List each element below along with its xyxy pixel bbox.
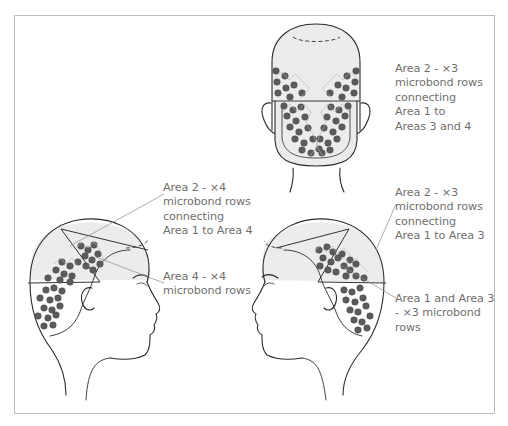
microbond-dot: [82, 253, 89, 260]
microbond-dot: [61, 271, 68, 278]
right-divider-horizontal: [318, 282, 386, 283]
microbond-dot: [97, 261, 104, 268]
microbond-dot: [45, 275, 52, 282]
right-eye: [264, 283, 274, 286]
microbond-dot: [275, 90, 282, 97]
microbond-dot: [330, 249, 337, 256]
left-eye: [137, 283, 147, 286]
back-neck-right: [340, 168, 344, 192]
back-ear-left: [262, 103, 276, 134]
microbond-dot: [50, 322, 57, 329]
microbond-dot: [90, 267, 97, 274]
microbond-dot: [299, 90, 306, 97]
microbond-dot: [342, 113, 349, 120]
microbond-dot: [274, 79, 281, 86]
microbond-dot: [296, 129, 303, 136]
microbond-dot: [334, 136, 341, 143]
microbond-dot: [321, 125, 328, 132]
left-ear: [81, 288, 94, 310]
back-ear-right: [356, 103, 370, 134]
microbond-dot: [353, 261, 360, 268]
microbond-dot: [45, 315, 52, 322]
back-lower-shade: [275, 101, 357, 166]
microbond-dot: [67, 279, 74, 286]
microbond-dot: [341, 287, 348, 294]
microbond-dot: [53, 312, 60, 319]
microbond-dot: [349, 289, 356, 296]
microbond-dot: [328, 259, 335, 266]
microbond-dot: [293, 118, 300, 125]
microbond-dot: [359, 319, 366, 326]
microbond-dot: [363, 303, 370, 310]
microbond-dot: [339, 251, 346, 258]
microbond-dot: [37, 295, 44, 302]
microbond-dot: [355, 309, 362, 316]
left-profile-head: [28, 194, 164, 400]
microbond-dot: [57, 277, 64, 284]
microbond-dot: [325, 267, 332, 274]
microbond-dot: [333, 269, 340, 276]
label-right-area2: Area 2 - ×3 microbond rows connecting Ar…: [395, 186, 485, 244]
microbond-dot: [333, 118, 340, 125]
left-face-outline: [110, 282, 160, 359]
label-back-area2: Area 2 - ×3 microbond rows connecting Ar…: [395, 62, 483, 134]
label-left-area4: Area 4 - ×4 microbond rows: [163, 270, 251, 299]
microbond-dot: [89, 257, 96, 264]
microbond-dot: [347, 257, 354, 264]
microbond-dot: [283, 85, 290, 92]
microbond-dot: [291, 82, 298, 89]
back-view-head: [262, 24, 370, 192]
microbond-dot: [47, 297, 54, 304]
microbond-dot: [292, 136, 299, 143]
right-neck-front: [302, 358, 326, 400]
microbond-dot: [339, 124, 346, 131]
microbond-dot: [284, 113, 291, 120]
microbond-dot: [327, 90, 334, 97]
microbond-dot: [95, 251, 102, 258]
microbond-dot: [51, 285, 58, 292]
microbond-dot: [302, 114, 309, 121]
microbond-dot: [347, 307, 354, 314]
label-right-area1-area3: Area 1 and Area 3 - ×3 microbond rows: [395, 292, 494, 335]
microbond-dot: [287, 124, 294, 131]
microbond-dot: [55, 295, 62, 302]
microbond-dot: [343, 297, 350, 304]
microbond-dot: [360, 295, 367, 302]
microbond-dot: [317, 263, 324, 270]
microbond-dot: [351, 90, 358, 97]
microbond-dot: [67, 263, 74, 270]
microbond-dot: [353, 68, 360, 75]
microbond-dot: [59, 288, 66, 295]
microbond-dot: [287, 94, 294, 101]
microbond-dot: [330, 129, 337, 136]
microbond-dot: [343, 85, 350, 92]
microbond-dot: [352, 299, 359, 306]
microbond-dot: [75, 259, 82, 266]
microbond-dot: [69, 273, 76, 280]
microbond-dot: [357, 285, 364, 292]
microbond-dot: [324, 114, 331, 121]
microbond-dot: [41, 323, 48, 330]
left-neck-front: [86, 358, 110, 400]
microbond-dot: [367, 313, 374, 320]
microbond-dot: [355, 327, 362, 334]
right-leader-area2: [376, 204, 396, 250]
microbond-dot: [83, 263, 90, 270]
microbond-dot: [35, 313, 42, 320]
back-neck-left: [290, 168, 293, 192]
microbond-dot: [352, 79, 359, 86]
microbond-dot: [324, 244, 331, 251]
microbond-dot: [299, 147, 306, 154]
microbond-dot: [320, 255, 327, 262]
microbond-dot: [53, 267, 60, 274]
microbond-dot: [273, 68, 280, 75]
left-divider-horizontal: [28, 282, 100, 283]
right-profile-head: [252, 204, 396, 400]
microbond-dot: [325, 140, 332, 147]
label-left-area2: Area 2 - ×4 microbond rows connecting Ar…: [163, 181, 253, 239]
microbond-dot: [335, 82, 342, 89]
microbond-dot: [343, 273, 350, 280]
microbond-dot: [339, 94, 346, 101]
microbond-dot: [327, 147, 334, 154]
microbond-dot: [308, 150, 315, 157]
